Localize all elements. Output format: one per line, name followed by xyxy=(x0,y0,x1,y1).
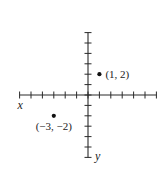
point-marker xyxy=(52,114,56,118)
plotted-points: (1, 2)(−3, −2) xyxy=(36,68,130,133)
point-label: (−3, −2) xyxy=(36,120,73,133)
y-axis-label: y xyxy=(94,149,101,163)
coordinate-plane: (1, 2)(−3, −2) x y xyxy=(0,0,167,196)
point-label: (1, 2) xyxy=(105,68,129,81)
point-marker xyxy=(97,72,101,76)
x-axis-label: x xyxy=(17,98,24,112)
